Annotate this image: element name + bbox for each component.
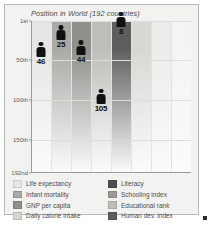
legend-item[interactable]: GNP per capita bbox=[13, 200, 98, 210]
chart-column-schooling-index bbox=[132, 21, 152, 172]
person-icon bbox=[56, 25, 67, 40]
legend-item-label: Infant mortality bbox=[26, 191, 69, 198]
person-icon bbox=[116, 12, 127, 27]
legend-item[interactable]: Infant mortality bbox=[13, 190, 98, 200]
chart-column-literacy bbox=[112, 21, 132, 172]
legend-swatch-icon bbox=[108, 191, 117, 199]
person-body bbox=[36, 47, 46, 57]
legend-item[interactable]: Life expectancy bbox=[13, 179, 98, 189]
data-value-label: 44 bbox=[76, 55, 87, 64]
chart-column-human-dev-index bbox=[172, 21, 191, 172]
data-value-label: 105 bbox=[95, 104, 108, 113]
gridline-1st bbox=[32, 21, 191, 22]
legend-item-label: Human dev. index bbox=[121, 212, 173, 219]
data-value-label: 8 bbox=[116, 27, 127, 36]
data-marker-infant-mortality: 25 bbox=[56, 25, 67, 49]
legend-column-right: LiteracySchooling indexEducational rankH… bbox=[108, 179, 193, 221]
data-marker-daily-calorie-intake: 105 bbox=[95, 89, 108, 113]
legend-item[interactable]: Educational rank bbox=[108, 200, 193, 210]
y-axis-tick-label: 1st bbox=[20, 18, 28, 24]
gridline-100th bbox=[32, 100, 191, 101]
person-head bbox=[59, 25, 64, 30]
y-axis-tick-mark bbox=[29, 21, 31, 22]
gridline-150th bbox=[32, 140, 191, 141]
y-axis-tick-mark bbox=[29, 139, 31, 140]
person-body bbox=[116, 17, 126, 27]
y-axis-tick-label: 100th bbox=[13, 97, 28, 103]
legend-swatch-icon bbox=[13, 201, 22, 209]
data-marker-life-expectancy: 46 bbox=[36, 42, 47, 66]
legend-column-left: Life expectancyInfant mortalityGNP per c… bbox=[13, 179, 98, 221]
chart-figure: Position in World (192 countries) 1st50t… bbox=[4, 4, 199, 215]
data-value-label: 46 bbox=[36, 57, 47, 66]
chart-column-educational-rank bbox=[152, 21, 172, 172]
person-head bbox=[79, 40, 84, 45]
data-marker-gnp-per-capita: 44 bbox=[76, 40, 87, 64]
legend-item[interactable]: Daily calorie intake bbox=[13, 211, 98, 221]
y-axis-tick-mark bbox=[29, 59, 31, 60]
person-body bbox=[76, 46, 86, 56]
legend-swatch-icon bbox=[13, 212, 22, 220]
legend-item-label: Life expectancy bbox=[26, 180, 71, 187]
plot-wrapper: 1st50th100th150th192nd 4625441058 bbox=[31, 21, 191, 173]
legend-item-label: Daily calorie intake bbox=[26, 212, 81, 219]
corner-mark bbox=[202, 215, 208, 221]
person-body bbox=[96, 94, 106, 104]
legend-item[interactable]: Schooling index bbox=[108, 190, 193, 200]
y-axis-tick-mark bbox=[29, 99, 31, 100]
y-axis-tick-mark bbox=[29, 173, 31, 174]
legend-item-label: Schooling index bbox=[121, 191, 167, 198]
person-head bbox=[39, 42, 44, 47]
legend-swatch-icon bbox=[108, 212, 117, 220]
legend-swatch-icon bbox=[13, 191, 22, 199]
gridline-50th bbox=[32, 60, 191, 61]
legend-item-label: Literacy bbox=[121, 180, 144, 187]
data-value-label: 25 bbox=[56, 40, 67, 49]
y-axis-tick-label: 150th bbox=[13, 137, 28, 143]
data-marker-literacy: 8 bbox=[116, 12, 127, 36]
person-head bbox=[119, 12, 124, 17]
person-icon bbox=[76, 40, 87, 55]
person-icon bbox=[96, 89, 107, 104]
person-body bbox=[56, 30, 66, 40]
legend-item[interactable]: Literacy bbox=[108, 179, 193, 189]
person-head bbox=[99, 89, 104, 94]
legend-swatch-icon bbox=[108, 180, 117, 188]
legend-swatch-icon bbox=[13, 180, 22, 188]
y-axis-tick-label: 192nd bbox=[11, 170, 28, 176]
legend-item-label: Educational rank bbox=[121, 202, 169, 209]
person-icon bbox=[36, 42, 47, 57]
legend-swatch-icon bbox=[108, 201, 117, 209]
legend-item-label: GNP per capita bbox=[26, 202, 70, 209]
chart-legend: Life expectancyInfant mortalityGNP per c… bbox=[13, 179, 193, 221]
legend-item[interactable]: Human dev. index bbox=[108, 211, 193, 221]
y-axis-tick-label: 50th bbox=[16, 57, 28, 63]
